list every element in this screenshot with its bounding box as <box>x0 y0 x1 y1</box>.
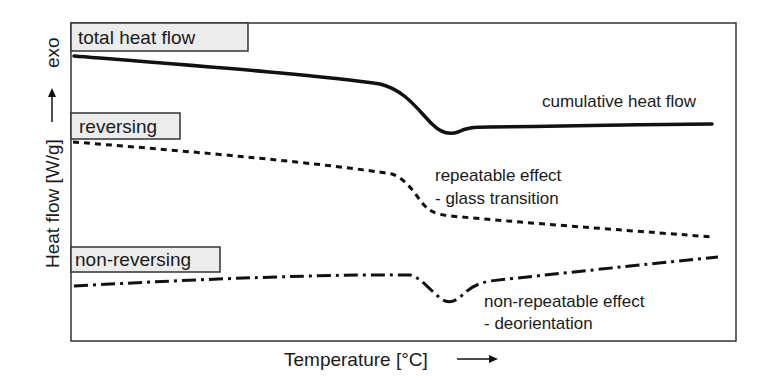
legend-reversing-label: reversing <box>79 116 157 137</box>
annotation-nonrepeatable-1: non-repeatable effect <box>484 292 645 311</box>
legend-nonreversing: non-reversing <box>71 247 220 272</box>
legend-total-label: total heat flow <box>78 27 196 48</box>
reversing-curve <box>73 142 712 237</box>
annotation-nonrepeatable-2: - deorientation <box>484 314 593 333</box>
exo-label: exo <box>42 37 63 68</box>
annotation-cumulative: cumulative heat flow <box>542 92 697 111</box>
x-axis-label: Temperature [°C] <box>284 349 428 370</box>
y-arrow-icon <box>48 88 56 122</box>
annotation-repeatable-1: repeatable effect <box>435 166 562 185</box>
legend-nonreversing-label: non-reversing <box>75 249 191 270</box>
y-axis-label: Heat flow [W/g] <box>42 139 63 268</box>
x-arrow-icon <box>457 355 498 363</box>
annotation-repeatable-2: - glass transition <box>435 189 559 208</box>
dsc-chart: total heat flow reversing non-reversing … <box>0 0 773 383</box>
legend-total: total heat flow <box>71 23 248 51</box>
legend-reversing: reversing <box>71 113 180 139</box>
